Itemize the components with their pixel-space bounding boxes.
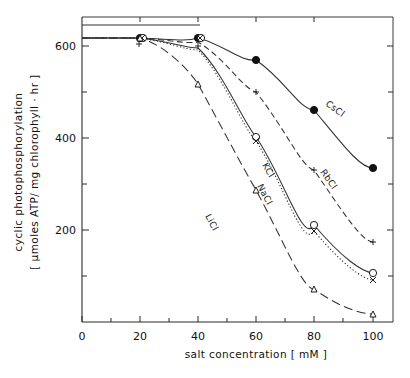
curve-label-kcl: KCl (260, 161, 276, 179)
curve-label-rbcl: RbCl (318, 167, 339, 191)
y-axis-ticks (82, 46, 393, 276)
marker-kcl-100 (369, 269, 376, 276)
markers-nacl (139, 35, 376, 283)
x-ticklabel-80: 80 (307, 330, 321, 343)
marker-cscl-100 (369, 164, 376, 171)
curve-nacl (82, 38, 373, 280)
marker-cscl-80 (310, 106, 317, 113)
y-ticklabel-200: 200 (55, 224, 76, 237)
x-ticklabel-60: 60 (249, 330, 263, 343)
markers-rbcl (136, 41, 376, 245)
figure-container: 0 20 40 60 80 100 600 400 200 salt conce… (0, 0, 410, 378)
marker-kcl-80 (310, 221, 317, 228)
x-ticklabel-20: 20 (133, 330, 147, 343)
y-tick-labels: 600 400 200 (55, 40, 76, 237)
plot-frame (82, 17, 393, 322)
y-ticklabel-400: 400 (55, 132, 76, 145)
marker-rbcl-60 (253, 89, 259, 95)
y-axis-title-line2: [ μmoles ATP/ mg chlorophyll · hr ] (28, 74, 40, 269)
curve-label-cscl: CsCl (324, 99, 347, 119)
x-ticklabel-40: 40 (191, 330, 205, 343)
x-axis-ticks (82, 17, 373, 322)
markers-licl (137, 35, 376, 317)
y-ticklabel-600: 600 (55, 40, 76, 53)
marker-rbcl-100 (370, 239, 376, 245)
x-axis-title: salt concentration [ mM ] (185, 348, 328, 360)
marker-kcl-40 (197, 34, 204, 41)
markers-kcl (139, 34, 376, 276)
curve-rbcl (82, 38, 373, 242)
x-tick-labels: 0 20 40 60 80 100 (79, 330, 384, 343)
curve-label-licl: LiCl (203, 212, 220, 232)
marker-licl-40 (195, 81, 201, 87)
marker-cscl-60 (252, 56, 259, 63)
y-axis-title-line1: cyclic photophosphorylation (12, 93, 24, 252)
markers-cscl (136, 34, 376, 171)
x-ticklabel-0: 0 (79, 330, 86, 343)
x-ticklabel-100: 100 (363, 330, 384, 343)
marker-kcl-60 (252, 133, 259, 140)
chart-svg: 0 20 40 60 80 100 600 400 200 salt conce… (0, 0, 410, 378)
marker-rbcl-80 (311, 167, 317, 173)
curve-kcl (82, 38, 373, 273)
